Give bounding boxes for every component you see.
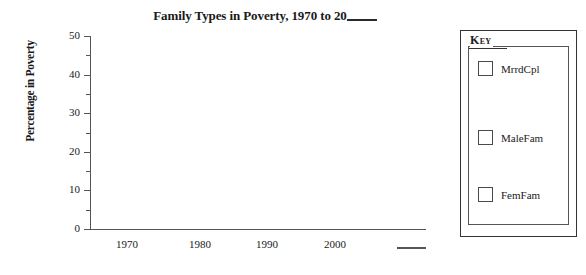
y-tick-minor xyxy=(86,94,90,95)
y-tick-label: 10 xyxy=(52,184,80,195)
chart-title: Family Types in Poverty, 1970 to 20 xyxy=(95,8,435,24)
y-tick-label: 20 xyxy=(52,146,80,157)
y-tick-label: 30 xyxy=(52,107,80,118)
chart-figure: Family Types in Poverty, 1970 to 20 Perc… xyxy=(0,0,586,275)
legend-entry-malefam[interactable]: MaleFam xyxy=(478,130,543,145)
y-tick-major xyxy=(84,229,90,230)
y-tick-major xyxy=(84,75,90,76)
x-tick-label-2000: 2000 xyxy=(312,238,358,250)
legend-label: MrrdCpl xyxy=(501,63,540,75)
legend-swatch-icon xyxy=(478,130,493,145)
title-blank-underline xyxy=(347,8,377,21)
y-tick-label: 0 xyxy=(52,223,80,234)
y-tick-minor xyxy=(86,171,90,172)
legend-swatch-icon xyxy=(478,61,493,76)
legend-swatch-icon xyxy=(478,187,493,202)
plot-area xyxy=(90,36,426,229)
y-tick-label: 40 xyxy=(52,69,80,80)
y-tick-major xyxy=(84,36,90,37)
y-tick-label: 50 xyxy=(52,30,80,41)
legend-entry-femfam[interactable]: FemFam xyxy=(478,187,540,202)
legend-inner-box: MrrdCpl MaleFam FemFam xyxy=(468,46,569,225)
chart-title-text: Family Types in Poverty, 1970 to 20 xyxy=(153,8,347,23)
x-tick-label-1990: 1990 xyxy=(244,238,290,250)
legend-heading-underline xyxy=(469,48,507,49)
y-tick-minor xyxy=(86,55,90,56)
x-axis-line xyxy=(90,229,426,230)
y-tick-major xyxy=(84,113,90,114)
x-tick-label-1980: 1980 xyxy=(177,238,223,250)
y-tick-minor xyxy=(86,133,90,134)
y-axis-label: Percentage in Poverty xyxy=(24,11,36,171)
y-tick-major xyxy=(84,152,90,153)
legend-entry-mrrdcpl[interactable]: MrrdCpl xyxy=(478,61,540,76)
legend-heading: Key xyxy=(470,33,493,49)
y-tick-minor xyxy=(86,210,90,211)
x-tick-blank-underline xyxy=(397,247,426,249)
y-tick-major xyxy=(84,190,90,191)
x-tick-label-1970: 1970 xyxy=(104,238,150,250)
legend-label: MaleFam xyxy=(501,132,543,144)
legend-label: FemFam xyxy=(501,189,540,201)
